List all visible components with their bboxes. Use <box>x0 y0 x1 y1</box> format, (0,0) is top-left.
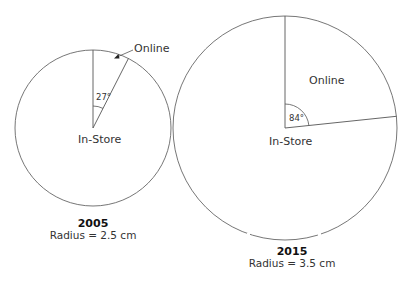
instore-label-2015: In-Store <box>269 136 312 148</box>
instore-label-2005: In-Store <box>78 134 121 146</box>
radius-2005: Radius = 2.5 cm <box>48 229 138 241</box>
angle-label-2015: 84° <box>289 113 304 123</box>
angle-label-2005: 27° <box>96 92 111 102</box>
pie-2015 <box>173 16 397 240</box>
pie-2005 <box>15 50 171 206</box>
online-label-2005: Online <box>134 43 169 55</box>
radius-2015: Radius = 3.5 cm <box>247 257 337 269</box>
online-label-2015: Online <box>309 75 344 87</box>
